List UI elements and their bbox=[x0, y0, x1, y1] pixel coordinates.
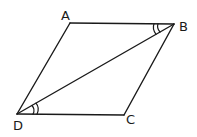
vertex-label-d: D bbox=[13, 119, 23, 132]
angle-mark-b-outer bbox=[153, 24, 156, 35]
angle-mark-b-inner bbox=[158, 24, 160, 32]
angle-mark-d-inner bbox=[32, 106, 34, 115]
diagonal-bd bbox=[17, 24, 174, 114]
side-da bbox=[17, 23, 70, 114]
diagram-svg bbox=[0, 0, 197, 137]
vertex-label-a: A bbox=[61, 9, 70, 22]
vertex-label-b: B bbox=[179, 20, 188, 33]
parallelogram-diagram: A B C D bbox=[0, 0, 197, 137]
vertex-label-c: C bbox=[126, 113, 135, 126]
angle-mark-d-outer bbox=[36, 103, 38, 114]
